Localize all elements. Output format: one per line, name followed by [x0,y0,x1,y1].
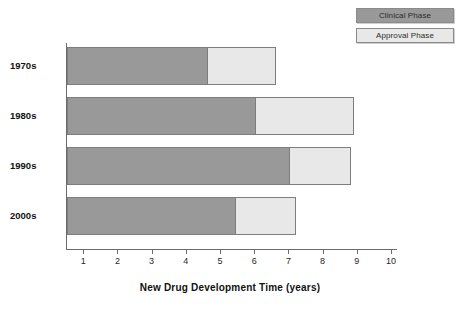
bar-segment-approval[interactable] [289,147,351,185]
x-axis-tick [288,249,289,254]
x-axis-tick [83,249,84,254]
chart-legend: Clinical Phase Approval Phase [356,8,454,48]
x-axis-title: New Drug Development Time (years) [0,282,460,293]
x-axis-tick-label: 6 [242,256,266,266]
bar-segment-clinical[interactable] [67,197,235,235]
x-axis-tick-label: 2 [105,256,129,266]
plot-area: 12345678910 [66,43,456,250]
bar-segment-clinical[interactable] [67,97,255,135]
bar-segment-approval[interactable] [235,197,297,235]
x-axis-tick [152,249,153,254]
category-label-1990s: 1990s [10,160,60,171]
x-axis-tick-label: 9 [345,256,369,266]
x-axis-tick [220,249,221,254]
bar-segment-clinical[interactable] [67,47,207,85]
bar-segment-clinical[interactable] [67,147,289,185]
x-axis-tick [186,249,187,254]
x-axis-tick-label: 1 [71,256,95,266]
bar-chart: Clinical Phase Approval Phase 1970s 1980… [0,0,460,315]
x-axis-tick-label: 4 [174,256,198,266]
x-axis-line [66,249,397,250]
x-axis-tick-label: 5 [208,256,232,266]
x-axis-tick-label: 8 [311,256,335,266]
category-label-1980s: 1980s [10,110,60,121]
category-label-2000s: 2000s [10,210,60,221]
x-axis-tick [391,249,392,254]
legend-label-approval-phase: Approval Phase [376,31,434,40]
x-axis-tick-label: 7 [276,256,300,266]
bar-segment-approval[interactable] [207,47,275,85]
x-axis-tick [357,249,358,254]
x-axis-tick [323,249,324,254]
category-label-1970s: 1970s [10,60,60,71]
x-axis-tick [117,249,118,254]
legend-label-clinical-phase: Clinical Phase [379,11,431,20]
x-axis-tick-label: 10 [379,256,403,266]
legend-item-clinical-phase[interactable]: Clinical Phase [356,8,454,23]
x-axis-tick-label: 3 [140,256,164,266]
x-axis-tick [254,249,255,254]
legend-item-approval-phase[interactable]: Approval Phase [356,28,454,43]
bar-segment-approval[interactable] [255,97,354,135]
